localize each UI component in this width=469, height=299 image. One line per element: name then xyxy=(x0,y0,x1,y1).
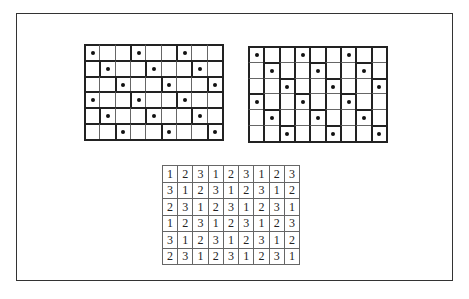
grid-cell xyxy=(191,91,206,107)
grid-cell xyxy=(207,60,222,76)
grid-cell xyxy=(207,91,222,107)
grid-cell xyxy=(191,76,206,92)
table-cell: 1 xyxy=(223,182,238,199)
grid-cell xyxy=(99,123,114,139)
grid-cell xyxy=(99,76,114,92)
dot-marker xyxy=(255,100,259,104)
dot-marker xyxy=(137,51,141,55)
grid-cell xyxy=(279,125,294,141)
grid-cell xyxy=(355,62,370,78)
table-cell: 2 xyxy=(208,248,223,265)
grid-cell xyxy=(355,46,370,62)
table-cell: 1 xyxy=(178,182,193,199)
table-row: 123123123 xyxy=(163,166,300,183)
dot-marker xyxy=(331,132,335,136)
table-cell: 1 xyxy=(208,215,223,232)
grid-cell xyxy=(84,76,99,92)
table-cell: 2 xyxy=(178,166,193,183)
grid-cell xyxy=(248,125,263,141)
grid-cell xyxy=(130,60,145,76)
grid-cell xyxy=(84,107,99,123)
grid-cell xyxy=(263,109,278,125)
table-cell: 1 xyxy=(223,232,238,249)
dot-marker xyxy=(331,85,335,89)
grid-cell xyxy=(340,93,355,109)
table-cell: 2 xyxy=(239,182,254,199)
grid-cell xyxy=(340,62,355,78)
table-cell: 3 xyxy=(223,248,238,265)
table-cell: 3 xyxy=(163,182,178,199)
grid-cell xyxy=(115,44,130,60)
grid-cell xyxy=(145,76,160,92)
dot-marker xyxy=(377,85,381,89)
dot-marker xyxy=(270,69,274,73)
table-cell: 3 xyxy=(239,166,254,183)
dot-marker xyxy=(167,83,171,87)
table-cell: 3 xyxy=(178,199,193,216)
grid-cell xyxy=(84,123,99,139)
grid-cell xyxy=(325,125,340,141)
table-cell: 3 xyxy=(208,182,223,199)
grid-cell xyxy=(325,46,340,62)
grid-cell xyxy=(191,44,206,60)
grid-cell xyxy=(176,44,191,60)
grid-cell xyxy=(325,62,340,78)
grid-cell xyxy=(115,91,130,107)
table-cell: 1 xyxy=(269,182,284,199)
grid-cell xyxy=(325,109,340,125)
grid-cell xyxy=(207,44,222,60)
table-cell: 2 xyxy=(223,166,238,183)
dot-marker xyxy=(285,85,289,89)
grid-cell xyxy=(309,62,324,78)
dot-marker xyxy=(255,53,259,57)
grid-cell xyxy=(99,91,114,107)
table-cell: 2 xyxy=(269,166,284,183)
table-cell: 2 xyxy=(284,182,299,199)
grid-cell xyxy=(130,76,145,92)
grid-cell xyxy=(248,78,263,94)
grid-cell xyxy=(355,78,370,94)
dot-marker xyxy=(198,67,202,71)
table-cell: 2 xyxy=(254,248,269,265)
table-cell: 1 xyxy=(239,199,254,216)
dot-marker xyxy=(301,53,305,57)
grid-cell xyxy=(84,91,99,107)
grid-cell xyxy=(371,109,386,125)
grid-cell xyxy=(294,62,309,78)
grid-cell xyxy=(263,62,278,78)
grid-cell xyxy=(130,91,145,107)
table-cell: 1 xyxy=(254,166,269,183)
table-cell: 3 xyxy=(254,182,269,199)
table-cell: 2 xyxy=(239,232,254,249)
grid-cell xyxy=(176,76,191,92)
grid-cell xyxy=(99,44,114,60)
table-cell: 3 xyxy=(284,215,299,232)
table-cell: 3 xyxy=(269,248,284,265)
grid-cell xyxy=(161,60,176,76)
grid-cell xyxy=(84,60,99,76)
grid-cell xyxy=(371,93,386,109)
dot-marker xyxy=(362,116,366,120)
grid-cell xyxy=(145,60,160,76)
table-cell: 1 xyxy=(254,215,269,232)
table-cell: 2 xyxy=(163,248,178,265)
grid-cell xyxy=(248,46,263,62)
dot-marker xyxy=(106,67,110,71)
grid-cell xyxy=(371,46,386,62)
table-cell: 1 xyxy=(193,248,208,265)
dot-marker xyxy=(213,130,217,134)
table-cell: 2 xyxy=(269,215,284,232)
grid-cell xyxy=(84,44,99,60)
table-row: 312312312 xyxy=(163,182,300,199)
grid-cell xyxy=(161,123,176,139)
table-cell: 1 xyxy=(163,166,178,183)
dot-marker xyxy=(213,83,217,87)
grid-cell xyxy=(115,76,130,92)
dot-marker xyxy=(301,100,305,104)
grid-cell xyxy=(279,62,294,78)
vertical-tiling-grid xyxy=(248,46,388,143)
table-cell: 3 xyxy=(284,166,299,183)
grid-cell xyxy=(191,60,206,76)
grid-cell xyxy=(207,123,222,139)
table-cell: 1 xyxy=(269,232,284,249)
